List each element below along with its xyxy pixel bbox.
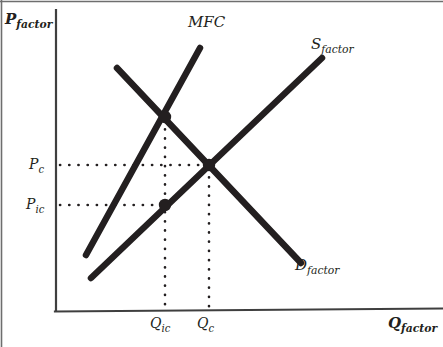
quantity-tick-qic: Qic <box>150 316 170 334</box>
point-monopsony-equilibrium <box>159 111 171 123</box>
point-monopsony-wage <box>159 199 171 211</box>
price-tick-pic-main: P <box>26 196 35 212</box>
y-axis-title-main: P <box>5 10 16 28</box>
curve-label-supply: Sfactor <box>311 37 354 56</box>
price-tick-pc-main: P <box>29 156 38 172</box>
curve-label-supply-sub: factor <box>321 43 353 56</box>
guide-lines <box>60 120 209 308</box>
x-axis-line <box>55 309 443 312</box>
price-tick-pc-sub: c <box>38 164 44 175</box>
curve-label-demand: Dfactor <box>295 258 340 277</box>
price-tick-pc: Pc <box>29 157 44 175</box>
page-border <box>0 0 443 347</box>
curve-label-demand-main: D <box>295 256 307 274</box>
diagram-canvas <box>0 0 443 347</box>
curve-label-demand-sub: factor <box>307 264 339 277</box>
curve-label-mfc: MFC <box>188 15 225 34</box>
quantity-tick-qc-sub: c <box>208 323 214 334</box>
monopsony-factor-market-diagram: Pfactor Qfactor Pc Pic Qic Qc MFC Sfacto… <box>0 0 443 347</box>
quantity-tick-qic-main: Q <box>150 315 161 331</box>
x-axis-title-main: Q <box>388 314 401 332</box>
quantity-tick-qc-main: Q <box>197 315 208 331</box>
price-tick-pic-sub: ic <box>35 204 44 215</box>
quantity-tick-qc: Qc <box>197 316 214 334</box>
y-axis-title-sub: factor <box>16 18 52 31</box>
price-tick-pic: Pic <box>26 197 44 215</box>
y-axis-title: Pfactor <box>5 12 52 31</box>
mfc-curve <box>86 48 200 255</box>
x-axis-title-sub: factor <box>401 322 437 335</box>
quantity-tick-qic-sub: ic <box>161 323 170 334</box>
x-axis-title: Qfactor <box>388 316 437 335</box>
axis-lines <box>55 10 443 312</box>
point-competitive-equilibrium <box>203 159 215 171</box>
curve-label-supply-main: S <box>311 35 321 53</box>
curve-label-mfc-main: MFC <box>188 13 225 31</box>
